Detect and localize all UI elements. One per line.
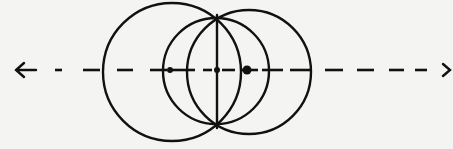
- geometric-diagram: [0, 0, 453, 149]
- left-focus-point: [167, 67, 173, 73]
- circles-group: [103, 3, 311, 141]
- left-arrowhead-icon: [16, 63, 36, 77]
- right-arrowhead-icon: [443, 64, 450, 76]
- right-focus-point: [243, 66, 252, 75]
- center-point: [214, 67, 220, 73]
